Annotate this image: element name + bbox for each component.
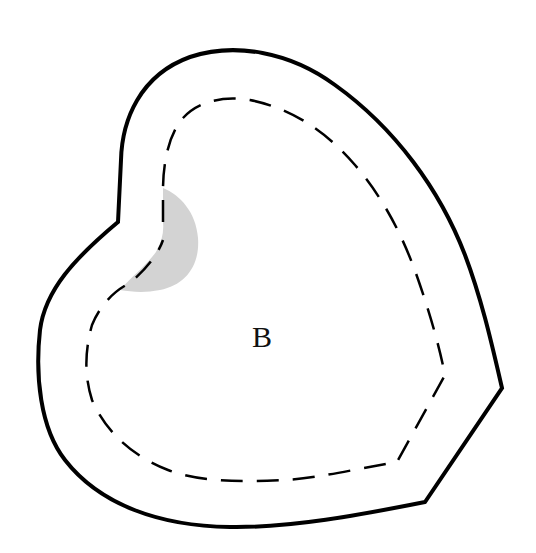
shaded-region [120, 188, 198, 292]
heart-shaped-diagram: B [0, 0, 536, 553]
outer-boundary [38, 50, 502, 527]
region-label: B [252, 320, 272, 353]
